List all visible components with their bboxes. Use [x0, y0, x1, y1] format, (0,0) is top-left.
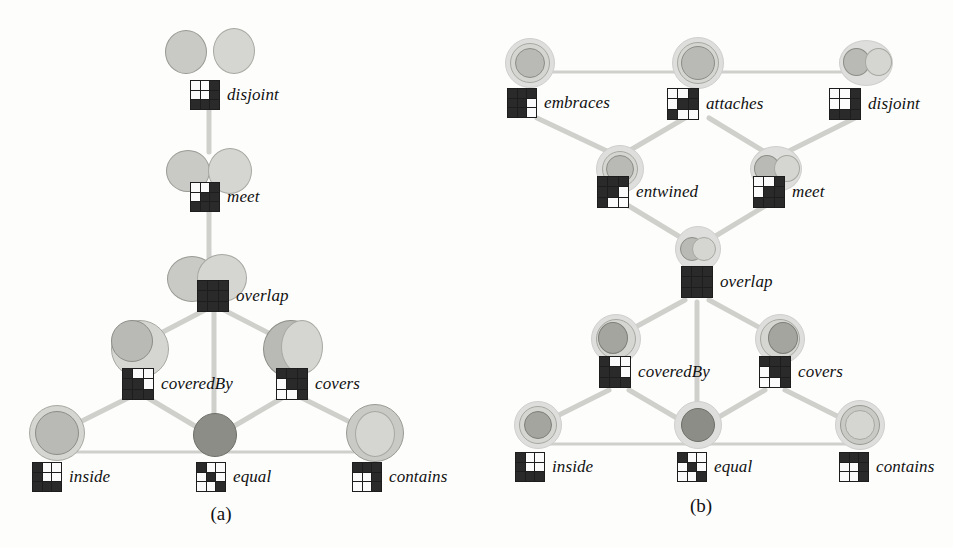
matrix-cell-2-0: [598, 198, 607, 207]
matrix-cell-0-1: [610, 357, 619, 366]
matrix-cell-0-2: [144, 369, 153, 378]
matrix-cell-1-1: [850, 463, 859, 472]
matrix-cell-1-0: [668, 99, 677, 108]
matrix-cell-2-0: [678, 472, 687, 481]
matrix-cell-1-1: [610, 367, 619, 376]
node-inside[interactable]: inside: [32, 462, 110, 492]
matrix-icon-entwined: [597, 176, 629, 208]
matrix-cell-1-0: [191, 193, 200, 202]
matrix-cell-2-1: [518, 108, 527, 117]
matrix-cell-2-2: [144, 390, 153, 399]
matrix-cell-0-1: [207, 463, 216, 472]
relation-lattice-figure: disjoint meet overlap coveredBy covers i…: [0, 0, 953, 547]
matrix-cell-2-1: [526, 472, 535, 481]
matrix-cell-0-2: [703, 267, 712, 276]
matrix-cell-2-1: [692, 288, 701, 297]
matrix-icon-equal: [677, 452, 707, 482]
matrix-cell-0-1: [133, 369, 142, 378]
matrix-cell-1-1: [518, 99, 527, 108]
matrix-cell-1-2: [216, 473, 225, 482]
matrix-cell-2-0: [191, 202, 200, 211]
matrix-cell-0-0: [123, 369, 132, 378]
matrix-cell-0-2: [621, 357, 630, 366]
node-meet[interactable]: meet: [753, 176, 825, 208]
matrix-cell-2-1: [850, 472, 859, 481]
matrix-cell-1-0: [123, 379, 132, 388]
matrix-cell-0-0: [754, 177, 763, 186]
matrix-icon-overlap: [681, 266, 713, 298]
matrix-cell-0-1: [764, 177, 773, 186]
node-disjoint[interactable]: disjoint: [190, 80, 279, 110]
node-entwined[interactable]: entwined: [597, 176, 698, 208]
matrix-cell-2-2: [619, 198, 628, 207]
matrix-cell-0-1: [608, 177, 617, 186]
node-covers[interactable]: covers: [276, 368, 360, 400]
node-equal[interactable]: equal: [677, 452, 752, 482]
panel-a-caption: (a): [193, 503, 249, 525]
matrix-icon-disjoint: [190, 80, 220, 110]
matrix-cell-2-1: [764, 198, 773, 207]
node-meet[interactable]: meet: [190, 182, 260, 212]
matrix-cell-1-1: [363, 473, 372, 482]
matrix-cell-1-1: [207, 473, 216, 482]
matrix-cell-1-0: [277, 379, 286, 388]
matrix-cell-2-1: [770, 378, 779, 387]
matrix-cell-0-2: [210, 81, 219, 90]
matrix-cell-0-0: [830, 89, 839, 98]
node-inside[interactable]: inside: [515, 452, 593, 482]
matrix-cell-0-1: [770, 357, 779, 366]
matrix-cell-0-2: [851, 89, 860, 98]
matrix-cell-0-1: [692, 267, 701, 276]
matrix-cell-1-1: [678, 99, 687, 108]
matrix-cell-2-1: [43, 482, 52, 491]
node-coveredby[interactable]: coveredBy: [122, 368, 233, 400]
matrix-cell-1-2: [619, 187, 628, 196]
matrix-cell-2-1: [201, 202, 210, 211]
node-contains[interactable]: contains: [839, 452, 934, 482]
matrix-cell-0-0: [668, 89, 677, 98]
node-coveredby[interactable]: coveredBy: [599, 356, 710, 388]
matrix-cell-2-2: [697, 472, 706, 481]
matrix-cell-1-0: [760, 367, 769, 376]
node-overlap[interactable]: overlap: [681, 266, 773, 298]
matrix-cell-0-0: [198, 281, 207, 290]
matrix-cell-2-1: [201, 100, 210, 109]
node-label-entwined: entwined: [636, 182, 698, 202]
matrix-icon-meet: [753, 176, 785, 208]
matrix-cell-1-1: [526, 463, 535, 472]
matrix-cell-0-0: [191, 183, 200, 192]
matrix-cell-0-1: [363, 463, 372, 472]
matrix-cell-0-1: [201, 81, 210, 90]
panel-b: embraces attaches disjoint entwined meet…: [487, 0, 953, 547]
matrix-cell-1-1: [688, 463, 697, 472]
matrix-cell-2-2: [689, 110, 698, 119]
matrix-cell-0-0: [277, 369, 286, 378]
edge-disjoint-meet: [787, 118, 855, 152]
matrix-cell-0-2: [775, 177, 784, 186]
node-label-disjoint: disjoint: [227, 85, 279, 105]
matrix-cell-0-2: [219, 281, 228, 290]
matrix-cell-2-0: [197, 482, 206, 491]
node-label-attaches: attaches: [706, 94, 763, 114]
matrix-cell-0-0: [197, 463, 206, 472]
node-label-embraces: embraces: [544, 93, 610, 113]
matrix-cell-1-2: [851, 99, 860, 108]
node-label-covers: covers: [798, 362, 843, 382]
matrix-cell-1-0: [33, 473, 42, 482]
node-equal[interactable]: equal: [196, 462, 271, 492]
node-covers[interactable]: covers: [759, 356, 843, 388]
matrix-cell-0-0: [191, 81, 200, 90]
matrix-cell-2-0: [516, 472, 525, 481]
node-embraces[interactable]: embraces: [507, 88, 610, 118]
panel-a: disjoint meet overlap coveredBy covers i…: [0, 0, 487, 547]
node-contains[interactable]: contains: [352, 462, 447, 492]
matrix-cell-1-0: [830, 99, 839, 108]
matrix-cell-2-0: [600, 378, 609, 387]
node-disjoint[interactable]: disjoint: [829, 88, 920, 120]
node-attaches[interactable]: attaches: [667, 88, 763, 120]
matrix-cell-1-2: [535, 463, 544, 472]
matrix-cell-2-2: [219, 302, 228, 311]
matrix-cell-0-0: [33, 463, 42, 472]
node-overlap[interactable]: overlap: [197, 280, 289, 312]
matrix-cell-1-1: [608, 187, 617, 196]
